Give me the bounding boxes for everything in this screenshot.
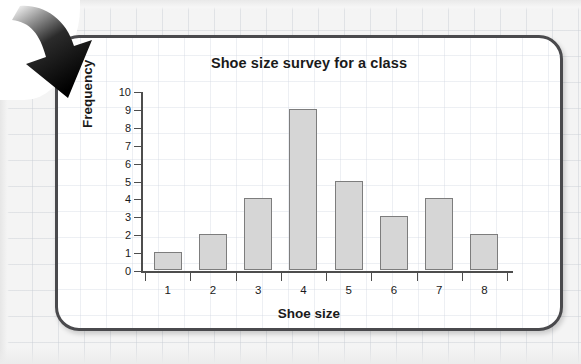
y-axis-tick-label: 3 bbox=[125, 211, 131, 223]
x-axis-tick-label: 7 bbox=[436, 284, 442, 296]
y-axis-tick-label: 8 bbox=[125, 122, 131, 134]
x-axis-tick-label: 3 bbox=[255, 284, 261, 296]
y-axis-line bbox=[141, 92, 143, 272]
x-axis-tick bbox=[236, 273, 237, 281]
page-edge-top bbox=[0, 0, 581, 10]
y-axis-tick bbox=[134, 253, 141, 254]
x-axis-title: Shoe size bbox=[58, 306, 560, 321]
chart-card: Shoe size survey for a class Frequency S… bbox=[55, 35, 563, 331]
y-axis-tick-label: 5 bbox=[125, 176, 131, 188]
x-axis-tick bbox=[371, 273, 372, 281]
x-axis-line bbox=[141, 271, 513, 273]
bar bbox=[335, 181, 363, 271]
screenshot-root: Shoe size survey for a class Frequency S… bbox=[0, 0, 581, 364]
y-axis-tick-label: 10 bbox=[119, 86, 131, 98]
bar bbox=[289, 109, 317, 270]
y-axis-tick bbox=[134, 146, 141, 147]
y-axis-tick bbox=[134, 199, 141, 200]
y-axis-tick bbox=[134, 217, 141, 218]
y-axis-tick-label: 1 bbox=[125, 247, 131, 259]
y-axis-tick bbox=[134, 164, 141, 165]
y-axis-tick-label: 7 bbox=[125, 140, 131, 152]
y-axis-tick bbox=[134, 271, 141, 272]
y-axis-title: Frequency bbox=[80, 60, 95, 128]
x-axis-tick bbox=[462, 273, 463, 281]
y-axis-tick-label: 0 bbox=[125, 265, 131, 277]
x-axis-tick-label: 6 bbox=[391, 284, 397, 296]
plot-area: 012345678910 12345678 bbox=[141, 92, 513, 271]
x-axis-tick bbox=[417, 273, 418, 281]
y-axis-tick-label: 4 bbox=[125, 193, 131, 205]
bar bbox=[470, 234, 498, 270]
x-axis-tick bbox=[145, 273, 146, 281]
x-axis-tick bbox=[326, 273, 327, 281]
chart-title: Shoe size survey for a class bbox=[58, 55, 560, 71]
y-axis-tick-label: 2 bbox=[125, 229, 131, 241]
bar bbox=[244, 198, 272, 270]
bar bbox=[380, 216, 408, 270]
y-axis-tick-label: 9 bbox=[125, 104, 131, 116]
x-axis-tick bbox=[507, 273, 508, 281]
x-axis-tick-label: 2 bbox=[210, 284, 216, 296]
y-axis-tick bbox=[134, 92, 141, 93]
x-axis-tick-label: 5 bbox=[345, 284, 351, 296]
y-axis-tick bbox=[134, 182, 141, 183]
bar bbox=[199, 234, 227, 270]
page-edge-bottom bbox=[0, 348, 581, 364]
x-axis-tick-label: 8 bbox=[481, 284, 487, 296]
bar bbox=[425, 198, 453, 270]
y-axis-tick bbox=[134, 128, 141, 129]
x-axis-tick bbox=[281, 273, 282, 281]
x-axis-tick-label: 4 bbox=[300, 284, 306, 296]
bar bbox=[154, 252, 182, 270]
x-axis-tick bbox=[190, 273, 191, 281]
y-axis-tick-label: 6 bbox=[125, 158, 131, 170]
y-axis-tick bbox=[134, 110, 141, 111]
x-axis-tick-label: 1 bbox=[164, 284, 170, 296]
y-axis-tick bbox=[134, 235, 141, 236]
